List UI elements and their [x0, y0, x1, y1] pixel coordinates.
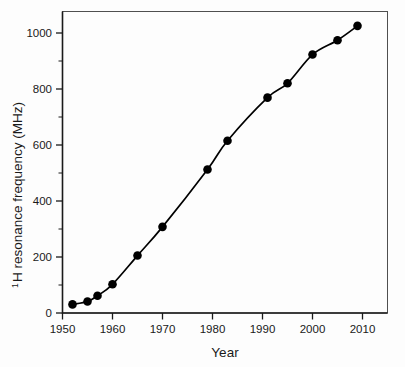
data-point: [308, 50, 317, 59]
data-point: [333, 36, 342, 45]
y-axis-tick-labels: 0 200 400 600 800 1000: [26, 27, 52, 319]
y-tick-label-400: 400: [33, 195, 52, 207]
y-tick-label-1000: 1000: [26, 27, 52, 39]
x-tick-label-1950: 1950: [50, 323, 76, 335]
x-tick-label-2000: 2000: [300, 323, 326, 335]
chart-canvas: 0 200 400 600 800 1000 1950 1960 1970 19…: [0, 0, 405, 367]
y-axis-title-superscript: 1: [10, 283, 20, 288]
x-tick-label-1990: 1990: [250, 323, 276, 335]
y-tick-label-0: 0: [46, 307, 52, 319]
x-axis-tick-labels: 1950 1960 1970 1980 1990 2000 2010: [50, 323, 376, 335]
data-point: [83, 297, 92, 306]
data-series-markers: [68, 22, 362, 309]
plot-axes: [63, 12, 388, 314]
x-tick-label-1970: 1970: [150, 323, 176, 335]
data-point: [283, 79, 292, 88]
data-point: [108, 280, 117, 289]
x-axis-title: Year: [211, 345, 239, 360]
y-tick-label-200: 200: [33, 251, 52, 263]
x-tick-label-1980: 1980: [200, 323, 226, 335]
y-tick-label-800: 800: [33, 83, 52, 95]
data-point: [68, 300, 77, 309]
x-tick-label-2010: 2010: [350, 323, 376, 335]
plot-frame: [63, 12, 388, 314]
data-point: [203, 165, 212, 174]
data-point: [133, 251, 142, 260]
y-tick-label-600: 600: [33, 139, 52, 151]
data-point: [223, 136, 232, 145]
y-axis-title: 1 H resonance frequency (MHz): [10, 102, 25, 288]
y-axis-title-text: H resonance frequency (MHz): [10, 102, 25, 282]
x-tick-label-1960: 1960: [100, 323, 126, 335]
x-axis-major-ticks: [63, 313, 363, 320]
data-series-line: [73, 26, 358, 305]
data-point: [93, 291, 102, 300]
data-point: [263, 93, 272, 102]
chart-figure: 0 200 400 600 800 1000 1950 1960 1970 19…: [0, 0, 405, 367]
data-point: [353, 22, 362, 31]
data-point: [158, 223, 167, 232]
